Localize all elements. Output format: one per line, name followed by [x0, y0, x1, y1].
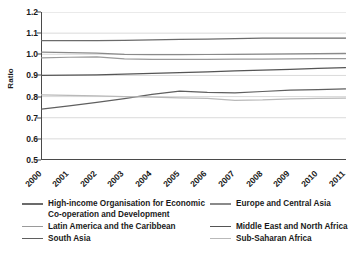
x-axis-tick-label: 2006: [188, 168, 208, 188]
series-line: [42, 38, 346, 41]
legend-item: High-income Organisation for Economic Co…: [22, 199, 210, 220]
legend-item: South Asia: [22, 234, 210, 245]
y-axis-tick-label: 0.7: [14, 113, 38, 123]
y-axis-tick-label: 1.1: [14, 28, 38, 38]
legend-column-right: Europe and Central AsiaMiddle East and N…: [210, 199, 355, 246]
legend-item-label: Latin America and the Caribbean: [48, 222, 210, 233]
y-axis-tick-label: 1.2: [14, 7, 38, 17]
x-axis-tick-label: 2010: [299, 168, 319, 188]
x-axis-tick-label: 2003: [105, 168, 125, 188]
x-axis-tick-label: 2005: [161, 168, 181, 188]
y-axis-tick-label: 1.0: [14, 49, 38, 59]
y-axis-tick-label: 0.9: [14, 70, 38, 80]
legend-item-label: Sub-Saharan Africa: [236, 234, 355, 245]
legend-color-swatch: [22, 226, 43, 228]
x-axis-tick-label: 2001: [50, 168, 70, 188]
series-line: [42, 95, 346, 101]
series-line: [42, 57, 346, 60]
legend-color-swatch: [210, 226, 231, 228]
legend-color-swatch: [22, 203, 43, 205]
legend-color-swatch: [210, 203, 231, 205]
legend-item: Latin America and the Caribbean: [22, 222, 210, 233]
legend-item: Sub-Saharan Africa: [210, 234, 355, 245]
y-axis-tick-label: 0.6: [14, 134, 38, 144]
legend-item: Middle East and North Africa: [210, 222, 355, 233]
legend-item-label: Middle East and North Africa: [236, 222, 355, 233]
ratio-line-chart: Ratio 1.21.11.00.90.80.70.60.5 200020012…: [0, 0, 355, 263]
x-axis-tick-label: 2009: [271, 168, 291, 188]
legend-item-label: High-income Organisation for Economic Co…: [48, 199, 210, 220]
legend-color-swatch: [210, 238, 231, 240]
legend-color-swatch: [22, 238, 43, 240]
x-axis-tick-label: 2008: [244, 168, 264, 188]
y-axis-tick-label: 0.5: [14, 155, 38, 165]
series-line: [42, 68, 346, 76]
legend-item: Europe and Central Asia: [210, 199, 355, 210]
y-axis-tick-label: 0.8: [14, 92, 38, 102]
legend-item-label: Europe and Central Asia: [236, 199, 355, 210]
plot-area: [41, 12, 346, 160]
x-axis-tick-label: 2004: [133, 168, 153, 188]
x-axis-tick-label: 2007: [216, 168, 236, 188]
x-axis-tick-label: 2011: [326, 168, 346, 188]
x-axis-tick-label: 2002: [78, 168, 98, 188]
legend-column-left: High-income Organisation for Economic Co…: [22, 199, 210, 246]
legend-spacer: [210, 211, 355, 222]
legend-item-label: South Asia: [48, 234, 210, 245]
chart-legend: High-income Organisation for Economic Co…: [22, 199, 352, 259]
x-axis-tick-label: 2000: [23, 168, 43, 188]
